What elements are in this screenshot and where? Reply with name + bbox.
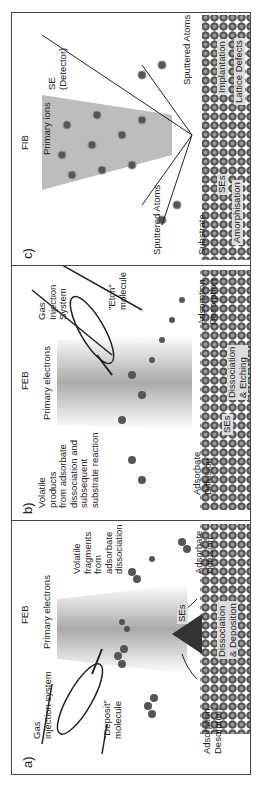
beam-source-label: FEB bbox=[20, 372, 31, 390]
beam-source-label: FEB bbox=[20, 606, 31, 624]
volatile-label: Volatilefragmentsfromadsorbatedissociati… bbox=[72, 524, 125, 574]
diffusion-label: AdsorbateDiffusion bbox=[194, 531, 215, 574]
figure-frame: a) Gasinjection system "Deposit"molecule… bbox=[11, 12, 253, 775]
panel-label: c) bbox=[20, 248, 35, 259]
molecule-label: "Deposit"molecule bbox=[102, 700, 123, 739]
panel-label: a) bbox=[20, 756, 35, 768]
electron-beam bbox=[57, 335, 192, 430]
implantation-label: Implantation bbox=[217, 39, 228, 95]
substrate-label: Substrate bbox=[197, 214, 208, 255]
molecule-label: "Etch"molecule bbox=[107, 272, 128, 310]
gis-label: Gasinjection system bbox=[32, 671, 53, 739]
diagram-canvas: a) Gasinjection system "Deposit"molecule… bbox=[11, 12, 253, 775]
amorphisation-label: Amorphisation bbox=[232, 180, 243, 245]
process-label: Dissociation& Etching bbox=[227, 345, 248, 400]
ses-label: SEs bbox=[217, 174, 228, 195]
beam-label: Primary electrons bbox=[42, 575, 53, 649]
sputtered-atoms-left-label: Sputtered Atoms bbox=[152, 185, 163, 255]
lattice-defects-label: Lattice Defects bbox=[234, 38, 245, 105]
process-label: Dissociation& Deposition bbox=[217, 601, 238, 659]
beam-label: Primary ions bbox=[42, 102, 53, 155]
volatile-label: Volatileproductsfrom adsorbatedissociati… bbox=[37, 432, 100, 508]
ses-label: SEs bbox=[222, 414, 233, 435]
panel-c: c) Sputtered Atoms Substrate FIB Primary… bbox=[11, 12, 251, 266]
panel-label: b) bbox=[20, 502, 35, 514]
diffusion-label: AdsorbateDiffusion bbox=[192, 452, 213, 495]
gis-label: GasInjectionSystem bbox=[37, 285, 69, 320]
adsorption-label: AdsorptionDesorption bbox=[202, 708, 223, 754]
ses-label: SEs bbox=[177, 603, 188, 624]
beam-source-label: FIB bbox=[20, 135, 31, 150]
panel-a: a) Gasinjection system "Deposit"molecule… bbox=[11, 520, 251, 775]
se-detector-label: SE(Detector) bbox=[47, 48, 68, 90]
adsorption-label: AdsorptionDesorption bbox=[197, 279, 218, 325]
sputtered-atoms-right-label: Sputtered Atoms bbox=[182, 15, 193, 85]
panel-b: b) Volatileproductsfrom adsorbatedissoci… bbox=[11, 265, 251, 521]
beam-label: Primary electrons bbox=[42, 346, 53, 420]
